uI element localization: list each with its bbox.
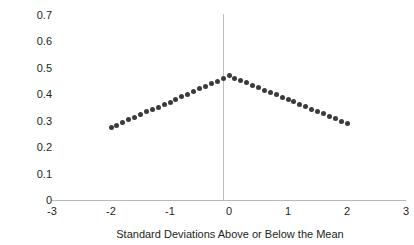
x-axis-tick-label: -1 (150, 206, 190, 217)
data-point (345, 121, 350, 126)
correlation-chart: Correlation 00.10.20.30.40.50.60.7 -3-2-… (0, 0, 414, 245)
data-point (297, 102, 302, 107)
data-point (132, 115, 137, 120)
x-axis-line (52, 200, 406, 201)
data-point (333, 116, 338, 121)
zero-reference-line (223, 14, 224, 201)
data-point (185, 92, 190, 97)
data-point (256, 85, 261, 90)
data-point (250, 83, 255, 88)
x-axis-tick-label: 2 (327, 206, 367, 217)
data-point (244, 80, 249, 85)
data-point (268, 90, 273, 95)
x-axis-tick-label: -3 (32, 206, 72, 217)
data-point (262, 88, 267, 93)
data-point (232, 76, 237, 81)
data-point (138, 112, 143, 117)
data-point (309, 107, 314, 112)
data-point (168, 100, 173, 105)
data-point (156, 105, 161, 110)
data-point (215, 79, 220, 84)
data-point (238, 78, 243, 83)
data-point (197, 86, 202, 91)
data-point (221, 76, 226, 81)
x-axis-tick-label: -2 (91, 206, 131, 217)
data-point (114, 123, 119, 128)
data-point (227, 73, 232, 78)
data-point (321, 111, 326, 116)
data-point (173, 97, 178, 102)
data-point (280, 95, 285, 100)
data-point (339, 119, 344, 124)
x-axis-tick-label: 3 (386, 206, 414, 217)
data-point (303, 104, 308, 109)
data-point (109, 125, 114, 130)
data-point (274, 92, 279, 97)
data-point (203, 84, 208, 89)
data-point (162, 102, 167, 107)
data-point (120, 120, 125, 125)
data-point (191, 89, 196, 94)
data-point (150, 107, 155, 112)
data-point (126, 117, 131, 122)
x-axis-tick-label: 1 (268, 206, 308, 217)
data-point (315, 109, 320, 114)
x-axis-tick-label: 0 (209, 206, 249, 217)
data-point (286, 97, 291, 102)
data-point (327, 114, 332, 119)
data-point (291, 99, 296, 104)
data-point (144, 109, 149, 114)
data-point (179, 94, 184, 99)
data-point (209, 81, 214, 86)
x-axis-title: Standard Deviations Above or Below the M… (52, 228, 408, 241)
x-axis-tick-labels: -3-2-10123 (0, 206, 414, 220)
